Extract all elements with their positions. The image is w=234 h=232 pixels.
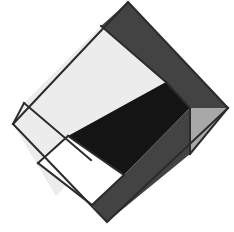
shape-fills-group (13, 2, 228, 222)
geometric-diamond-figure: Geometric Diamond Composition (0, 0, 234, 232)
artwork-canvas: Geometric Diamond Composition (0, 0, 234, 232)
